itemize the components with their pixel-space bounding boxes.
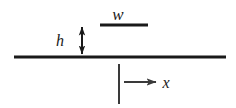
x-axis-label: x xyxy=(161,74,169,91)
width-label: w xyxy=(112,5,124,24)
height-label: h xyxy=(56,32,64,49)
line-diagram: w h x xyxy=(0,0,236,108)
figure-canvas: w h x xyxy=(0,0,236,108)
